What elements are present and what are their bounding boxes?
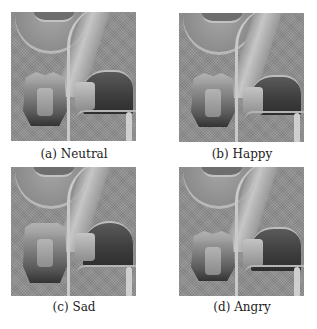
lips [33, 12, 75, 22]
neck-outline [126, 267, 132, 296]
mouth-side-view [83, 70, 133, 114]
tongue-front-view [23, 223, 67, 283]
caption-d: (d) Angry [172, 300, 312, 314]
caption-c: (c) Sad [4, 300, 144, 314]
mouth-side-view [251, 75, 301, 115]
tongue-front-view [191, 73, 235, 127]
panel-angry-image [179, 167, 304, 296]
caption-b: (b) Happy [172, 147, 312, 161]
panel-sad-image [11, 167, 136, 296]
lips [201, 167, 243, 177]
mouth-side-view [83, 221, 133, 267]
lips [201, 13, 243, 23]
neck-outline [294, 113, 300, 142]
neck-outline [294, 267, 300, 296]
panel-neutral-image [11, 12, 136, 141]
panel-happy-image [179, 13, 304, 142]
neck-outline [126, 112, 132, 141]
tongue-front-view [191, 231, 235, 281]
tongue-front-view [23, 72, 67, 126]
caption-a: (a) Neutral [4, 147, 144, 161]
lips [33, 167, 75, 177]
